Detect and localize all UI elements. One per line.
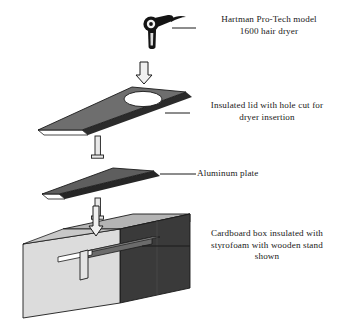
dryer-handle-highlight xyxy=(150,33,153,46)
assembly-arrow-1 xyxy=(136,62,152,84)
cardboard-box xyxy=(23,214,190,318)
box-front-face xyxy=(23,229,120,318)
dryer-nozzle-core xyxy=(149,22,153,26)
aluminum-plate xyxy=(42,168,160,199)
apparatus-exploded-diagram xyxy=(0,0,344,321)
figure-root: Hartman Pro-Tech model 1600 hair dryer I… xyxy=(0,0,344,321)
lid-underside xyxy=(38,130,88,135)
callout-label-insulated-lid: Insulated lid with hole cut for dryer in… xyxy=(192,100,342,123)
box-side-face xyxy=(120,214,190,303)
lid-dryer-hole xyxy=(124,91,162,106)
insulated-lid xyxy=(38,87,192,135)
callout-label-hair-dryer: Hartman Pro-Tech model 1600 hair dryer xyxy=(197,14,341,37)
callout-label-aluminum-plate: Aluminum plate xyxy=(197,168,341,180)
callout-label-cardboard-box: Cardboard box insulated with styrofoam w… xyxy=(192,228,342,263)
wooden-stand-leg xyxy=(80,250,88,280)
hair-dryer-illustration xyxy=(143,15,186,49)
